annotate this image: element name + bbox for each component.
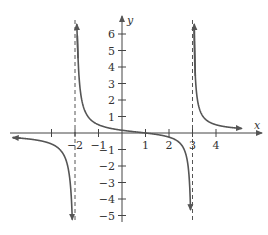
- y-tick-label: −5: [99, 210, 115, 223]
- x-tick-label: −2: [67, 139, 83, 152]
- y-tick-label: 5: [108, 45, 115, 58]
- y-tick-label: 1: [108, 111, 115, 124]
- rational-function-graph: −2−11234−5−4−3−2−1123456 x y: [0, 0, 268, 235]
- x-axis-label: x: [254, 119, 261, 132]
- y-tick-label: −2: [99, 160, 115, 173]
- function-curves: [13, 24, 242, 220]
- x-tick-label: 3: [189, 139, 196, 152]
- y-tick-label: −1: [99, 144, 115, 157]
- y-tick-label: −4: [99, 193, 115, 206]
- y-tick-label: 6: [108, 28, 115, 41]
- y-tick-label: 2: [108, 94, 115, 107]
- y-tick-label: 3: [108, 78, 115, 91]
- curve-branch: [77, 35, 190, 210]
- axes: [10, 16, 262, 222]
- x-tick-label: 1: [142, 139, 149, 152]
- x-tick-label: 2: [166, 139, 173, 152]
- curve-branch: [13, 138, 73, 220]
- y-axis-label: y: [126, 14, 134, 27]
- y-tick-label: 4: [108, 61, 115, 74]
- x-tick-label: 4: [213, 139, 220, 152]
- y-tick-label: −3: [99, 177, 115, 190]
- curve-branch: [194, 28, 242, 129]
